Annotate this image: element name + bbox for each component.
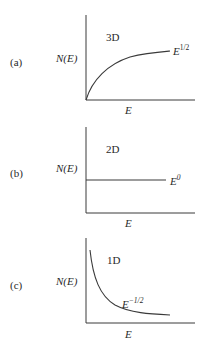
sqrt-curve (86, 51, 170, 100)
y-axis-label: N(E) (55, 275, 78, 288)
dimension-label: 3D (106, 31, 120, 43)
curve-label: E1/2 (172, 43, 190, 57)
x-axis-label: E (124, 104, 132, 116)
dimension-label: 1D (107, 254, 121, 266)
y-axis-label: N(E) (55, 52, 78, 65)
panel-3d: (a) N(E) 3D E1/2 E (10, 15, 195, 116)
panel-1d: (c) N(E) 1D E−1/2 E (10, 238, 195, 340)
density-of-states-diagram: (a) N(E) 3D E1/2 E (b) N(E) 2D E0 E (c) … (0, 0, 204, 358)
curve-label: E0 (169, 173, 181, 187)
panel-label-c: (c) (10, 279, 23, 292)
x-axis-label: E (124, 217, 132, 229)
inverse-sqrt-curve (90, 250, 170, 315)
y-axis-label: N(E) (55, 162, 78, 175)
dimension-label: 2D (106, 143, 120, 155)
x-axis-label: E (124, 328, 132, 340)
curve-label: E−1/2 (121, 296, 144, 310)
panel-label-b: (b) (10, 167, 23, 180)
panel-label-a: (a) (10, 56, 23, 69)
panel-2d: (b) N(E) 2D E0 E (10, 127, 195, 229)
